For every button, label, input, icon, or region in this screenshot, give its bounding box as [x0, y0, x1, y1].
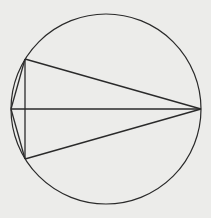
geometry-figure: [0, 0, 211, 218]
segments: [11, 59, 201, 159]
segment-DB: [25, 109, 201, 159]
segment-CB: [25, 59, 201, 109]
segment-AD: [11, 109, 25, 159]
segment-AC: [11, 59, 25, 109]
